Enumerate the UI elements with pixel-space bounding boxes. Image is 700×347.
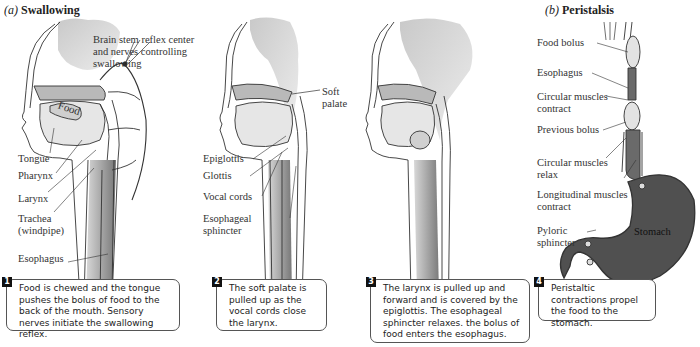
label-circular-relax: Circular muscles relax bbox=[537, 157, 608, 181]
label-epiglottis: Epiglottis bbox=[203, 153, 244, 165]
label-food-bolus: Food bolus bbox=[537, 37, 584, 49]
label-previous-bolus: Previous bolus bbox=[537, 124, 599, 136]
label-stomach: Stomach bbox=[634, 226, 671, 238]
caption-step-2: 2 The soft palate is pulled up as the vo… bbox=[216, 279, 327, 331]
step-number-badge: 4 bbox=[534, 277, 544, 287]
label-tongue: Tongue bbox=[18, 153, 49, 165]
label-glottis: Glottis bbox=[203, 170, 232, 182]
step-number-badge: 3 bbox=[366, 277, 376, 287]
label-pharynx: Pharynx bbox=[18, 170, 53, 182]
label-esophagus-b: Esophagus bbox=[537, 67, 583, 79]
esophagus-stomach-diagram bbox=[560, 22, 694, 284]
label-longitudinal-contract: Longitudinal muscles contract bbox=[537, 189, 628, 213]
label-circular-contract: Circular muscles contract bbox=[537, 91, 608, 115]
step-number-badge: 2 bbox=[212, 277, 222, 287]
label-pyloric-sphincter: Pyloric sphincter bbox=[537, 225, 576, 249]
label-esophagus-a: Esophagus bbox=[18, 253, 64, 265]
label-vocal-cords: Vocal cords bbox=[203, 191, 252, 203]
caption-step-4: 4 Peristaltic contractions propel the fo… bbox=[538, 279, 656, 321]
label-trachea: Trachea (windpipe) bbox=[18, 213, 64, 237]
caption-step-1: 1 Food is chewed and the tongue pushes t… bbox=[6, 279, 180, 331]
label-larynx: Larynx bbox=[18, 193, 48, 205]
step-number-badge: 1 bbox=[2, 277, 12, 287]
label-brain-stem: Brain stem reflex center and nerves cont… bbox=[93, 34, 194, 70]
label-esophageal-sphincter: Esophageal sphincter bbox=[203, 213, 251, 237]
label-soft-palate: Soft palate bbox=[322, 86, 347, 110]
caption-step-3: 3 The larynx is pulled up and forward an… bbox=[370, 279, 530, 343]
